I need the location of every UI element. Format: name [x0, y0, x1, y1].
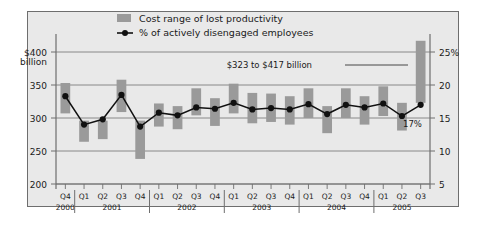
- y-right-tick-label: 20: [439, 81, 451, 91]
- legend-label-cost-range: Cost range of lost productivity: [139, 13, 283, 24]
- chart-stage: Cost range of lost productivity% of acti…: [0, 0, 486, 228]
- disengaged-points: [62, 92, 424, 130]
- y-right-tick-label: 25%: [439, 48, 459, 58]
- disengaged-point: [305, 101, 311, 107]
- x-tick-label-quarter: Q4: [135, 192, 146, 201]
- cost-range-bar: [210, 98, 220, 126]
- y-right-tick-label: 15: [439, 114, 450, 124]
- x-axis-year-label: 2000: [56, 203, 75, 212]
- x-axis-year-label: 2002: [177, 203, 196, 212]
- x-tick-label-quarter: Q3: [415, 192, 426, 201]
- disengaged-point: [324, 111, 330, 117]
- disengaged-point: [268, 105, 274, 111]
- disengaged-point: [137, 123, 143, 129]
- annotation-disengaged-percent: 17%: [403, 119, 422, 129]
- y-right-tick-label: 5: [439, 180, 445, 190]
- x-tick-label-quarter: Q2: [397, 192, 408, 201]
- x-axis: Q4Q1Q2Q3Q4Q1Q2Q3Q4Q1Q2Q3Q4Q1Q2Q3Q4Q1Q2Q3…: [56, 184, 430, 213]
- x-tick-label-quarter: Q2: [172, 192, 183, 201]
- x-tick-label-quarter: Q3: [266, 192, 277, 201]
- disengaged-point: [156, 110, 162, 116]
- legend-label-disengaged: % of actively disengaged employees: [139, 27, 314, 38]
- disengaged-point: [361, 104, 367, 110]
- x-tick-label-quarter: Q1: [154, 192, 165, 201]
- disengaged-point: [212, 106, 218, 112]
- legend-dot-disengaged: [122, 30, 128, 36]
- disengaged-point: [380, 100, 386, 106]
- annotation-cost-range: $323 to $417 billion: [227, 60, 312, 70]
- y-left-unit-label: billion: [20, 57, 47, 67]
- disengaged-point: [231, 100, 237, 106]
- x-tick-label-quarter: Q4: [359, 192, 370, 201]
- x-axis-year-label: 2001: [103, 203, 122, 212]
- y-left-tick-label: 200: [30, 180, 47, 190]
- disengaged-point: [193, 104, 199, 110]
- disengaged-point: [287, 106, 293, 112]
- y-right-tick-label: 10: [439, 147, 451, 157]
- x-axis-year-label: 2004: [327, 203, 346, 212]
- cost-range-bar: [191, 88, 201, 115]
- x-tick-label-quarter: Q1: [79, 192, 90, 201]
- x-tick-label-quarter: Q1: [378, 192, 389, 201]
- disengaged-point: [81, 122, 87, 128]
- y-left-tick-label: 300: [30, 114, 47, 124]
- x-tick-label-quarter: Q1: [303, 192, 314, 201]
- x-axis-year-label: 2005: [392, 203, 411, 212]
- x-tick-label-quarter: Q2: [247, 192, 258, 201]
- x-axis-year-label: 2003: [252, 203, 271, 212]
- disengaged-point: [343, 102, 349, 108]
- x-tick-label-quarter: Q3: [191, 192, 202, 201]
- cost-range-bar: [322, 106, 332, 133]
- disengaged-point: [118, 92, 124, 98]
- disengaged-point: [249, 106, 255, 112]
- x-tick-label-quarter: Q3: [341, 192, 352, 201]
- x-tick-label-quarter: Q4: [60, 192, 71, 201]
- x-tick-label-quarter: Q3: [116, 192, 127, 201]
- x-tick-label-quarter: Q2: [322, 192, 333, 201]
- x-tick-label-quarter: Q1: [228, 192, 239, 201]
- x-tick-label-quarter: Q4: [210, 192, 221, 201]
- y-left-tick-label: $400: [24, 48, 47, 58]
- cost-range-bar: [98, 121, 108, 139]
- productivity-cost-chart: Cost range of lost productivity% of acti…: [0, 0, 486, 228]
- y-right-axis: 25%2015105: [430, 48, 459, 190]
- disengaged-point: [100, 116, 106, 122]
- disengaged-point: [418, 102, 424, 108]
- cost-range-bar: [416, 41, 426, 103]
- disengaged-point: [62, 93, 68, 99]
- y-left-tick-label: 250: [30, 147, 47, 157]
- chart-legend: Cost range of lost productivity% of acti…: [117, 13, 314, 38]
- legend-swatch-cost-range: [117, 14, 131, 22]
- disengaged-point: [174, 112, 180, 118]
- x-tick-label-quarter: Q4: [284, 192, 295, 201]
- y-left-tick-label: 350: [30, 81, 47, 91]
- cost-range-bars: [60, 41, 425, 159]
- x-tick-label-quarter: Q2: [97, 192, 108, 201]
- cost-range-bar: [229, 84, 239, 114]
